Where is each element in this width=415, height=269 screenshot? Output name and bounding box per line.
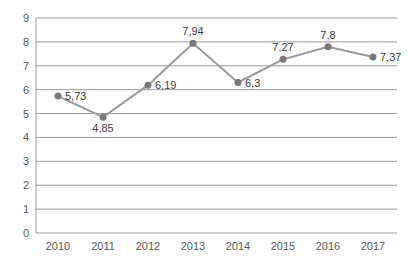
data-point-marker [100, 114, 107, 121]
x-tick-label: 2017 [361, 240, 385, 252]
data-point-marker [370, 53, 377, 60]
line-chart: 01234567895,7320104,8520116,1920127,9420… [0, 0, 415, 269]
y-tick-label: 0 [23, 227, 29, 239]
y-tick-label: 8 [23, 36, 29, 48]
y-tick-label: 2 [23, 179, 29, 191]
data-point-label: 7,27 [272, 41, 293, 53]
series-line [58, 43, 373, 117]
x-tick-label: 2016 [316, 240, 340, 252]
x-tick-label: 2010 [46, 240, 70, 252]
y-tick-label: 5 [23, 108, 29, 120]
data-point-marker [55, 93, 62, 100]
y-tick-label: 1 [23, 203, 29, 215]
data-point-label: 7,8 [320, 29, 335, 41]
x-tick-label: 2013 [181, 240, 205, 252]
y-tick-label: 9 [23, 12, 29, 24]
data-point-label: 4,85 [92, 122, 113, 134]
line-chart-svg: 01234567895,7320104,8520116,1920127,9420… [0, 0, 415, 269]
data-point-label: 7,94 [182, 25, 203, 37]
data-point-marker [145, 82, 152, 89]
data-point-marker [235, 79, 242, 86]
data-point-marker [325, 43, 332, 50]
data-point-marker [280, 56, 287, 63]
data-point-marker [190, 40, 197, 47]
x-tick-label: 2015 [271, 240, 295, 252]
y-tick-label: 3 [23, 155, 29, 167]
data-point-label: 7,37 [380, 51, 401, 63]
data-point-label: 6,3 [245, 77, 260, 89]
x-tick-label: 2011 [91, 240, 115, 252]
data-point-label: 6,19 [155, 79, 176, 91]
y-tick-label: 6 [23, 84, 29, 96]
x-tick-label: 2014 [226, 240, 250, 252]
y-tick-label: 4 [23, 131, 29, 143]
y-tick-label: 7 [23, 60, 29, 72]
data-point-label: 5,73 [65, 90, 86, 102]
x-tick-label: 2012 [136, 240, 160, 252]
